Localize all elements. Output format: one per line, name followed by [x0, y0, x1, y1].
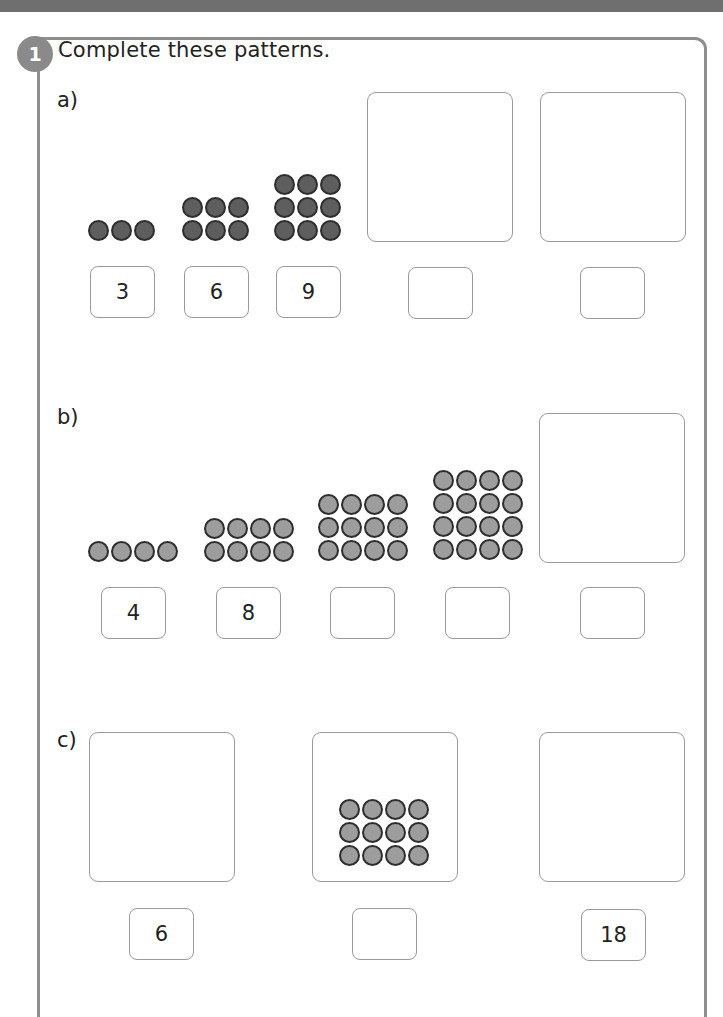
counter — [387, 517, 408, 538]
part-c-count-box-1: 6 — [129, 908, 194, 960]
counter — [157, 541, 178, 562]
part-a-pattern-2 — [182, 197, 249, 241]
counter — [297, 174, 318, 195]
counter — [134, 220, 155, 241]
counter — [341, 517, 362, 538]
counter — [456, 539, 477, 560]
part-b-count-box-5[interactable] — [580, 587, 645, 639]
counter — [88, 220, 109, 241]
part-c-pattern-2 — [339, 799, 429, 866]
part-b-drawing-box-5[interactable] — [539, 413, 685, 563]
counter — [502, 493, 523, 514]
part-a-pattern-3 — [274, 174, 341, 241]
counter — [433, 539, 454, 560]
counter — [385, 799, 406, 820]
counter — [479, 493, 500, 514]
counter — [205, 197, 226, 218]
counter — [250, 541, 271, 562]
counter — [320, 174, 341, 195]
counter — [134, 541, 155, 562]
part-a-count-box-1: 3 — [90, 266, 155, 318]
part-c-count-box-2[interactable] — [352, 908, 417, 960]
counter — [273, 518, 294, 539]
counter — [408, 799, 429, 820]
counter — [408, 845, 429, 866]
part-c-count-box-3: 18 — [581, 909, 646, 961]
counter — [502, 539, 523, 560]
counter — [111, 220, 132, 241]
counter — [341, 540, 362, 561]
counter — [387, 494, 408, 515]
part-b-pattern-2 — [204, 518, 294, 562]
counter — [88, 541, 109, 562]
counter — [228, 197, 249, 218]
part-b-label: b) — [57, 405, 79, 429]
counter — [362, 799, 383, 820]
counter — [387, 540, 408, 561]
counter — [341, 494, 362, 515]
counter — [111, 541, 132, 562]
counter — [205, 220, 226, 241]
counter — [227, 541, 248, 562]
counter — [362, 822, 383, 843]
counter — [204, 541, 225, 562]
part-a-count-box-4[interactable] — [408, 267, 473, 319]
counter — [479, 470, 500, 491]
counter — [274, 220, 295, 241]
counter — [339, 822, 360, 843]
counter — [479, 539, 500, 560]
counter — [339, 845, 360, 866]
part-c-drawing-box-1[interactable] — [89, 732, 235, 882]
counter — [433, 516, 454, 537]
part-a-label: a) — [57, 88, 78, 112]
part-b-pattern-1 — [88, 541, 178, 562]
counter — [297, 220, 318, 241]
counter — [408, 822, 429, 843]
question-instruction: Complete these patterns. — [58, 38, 330, 62]
counter — [228, 220, 249, 241]
counter — [182, 220, 203, 241]
counter — [274, 197, 295, 218]
counter — [204, 518, 225, 539]
counter — [433, 493, 454, 514]
part-a-drawing-box-4[interactable] — [367, 92, 513, 242]
part-b-pattern-3 — [318, 494, 408, 561]
part-a-drawing-box-5[interactable] — [540, 92, 686, 242]
counter — [182, 197, 203, 218]
counter — [362, 845, 383, 866]
counter — [273, 541, 294, 562]
counter — [227, 518, 248, 539]
counter — [339, 799, 360, 820]
part-c-drawing-box-3[interactable] — [539, 732, 685, 882]
part-a-count-box-3: 9 — [276, 266, 341, 318]
part-b-pattern-4 — [433, 470, 523, 560]
counter — [318, 517, 339, 538]
counter — [433, 470, 454, 491]
counter — [479, 516, 500, 537]
part-b-count-box-4[interactable] — [445, 587, 510, 639]
header-band — [0, 0, 723, 12]
question-number-badge: 1 — [17, 36, 53, 72]
counter — [250, 518, 271, 539]
counter — [456, 470, 477, 491]
counter — [456, 516, 477, 537]
counter — [364, 517, 385, 538]
counter — [385, 845, 406, 866]
counter — [364, 494, 385, 515]
counter — [274, 174, 295, 195]
part-b-count-box-3[interactable] — [330, 587, 395, 639]
part-a-count-box-5[interactable] — [580, 267, 645, 319]
counter — [318, 540, 339, 561]
counter — [502, 516, 523, 537]
part-a-pattern-1 — [88, 220, 155, 241]
counter — [385, 822, 406, 843]
counter — [318, 494, 339, 515]
counter — [502, 470, 523, 491]
counter — [320, 197, 341, 218]
part-b-count-box-2: 8 — [216, 587, 281, 639]
counter — [297, 197, 318, 218]
counter — [320, 220, 341, 241]
counter — [364, 540, 385, 561]
part-b-count-box-1: 4 — [101, 587, 166, 639]
part-a-count-box-2: 6 — [184, 266, 249, 318]
